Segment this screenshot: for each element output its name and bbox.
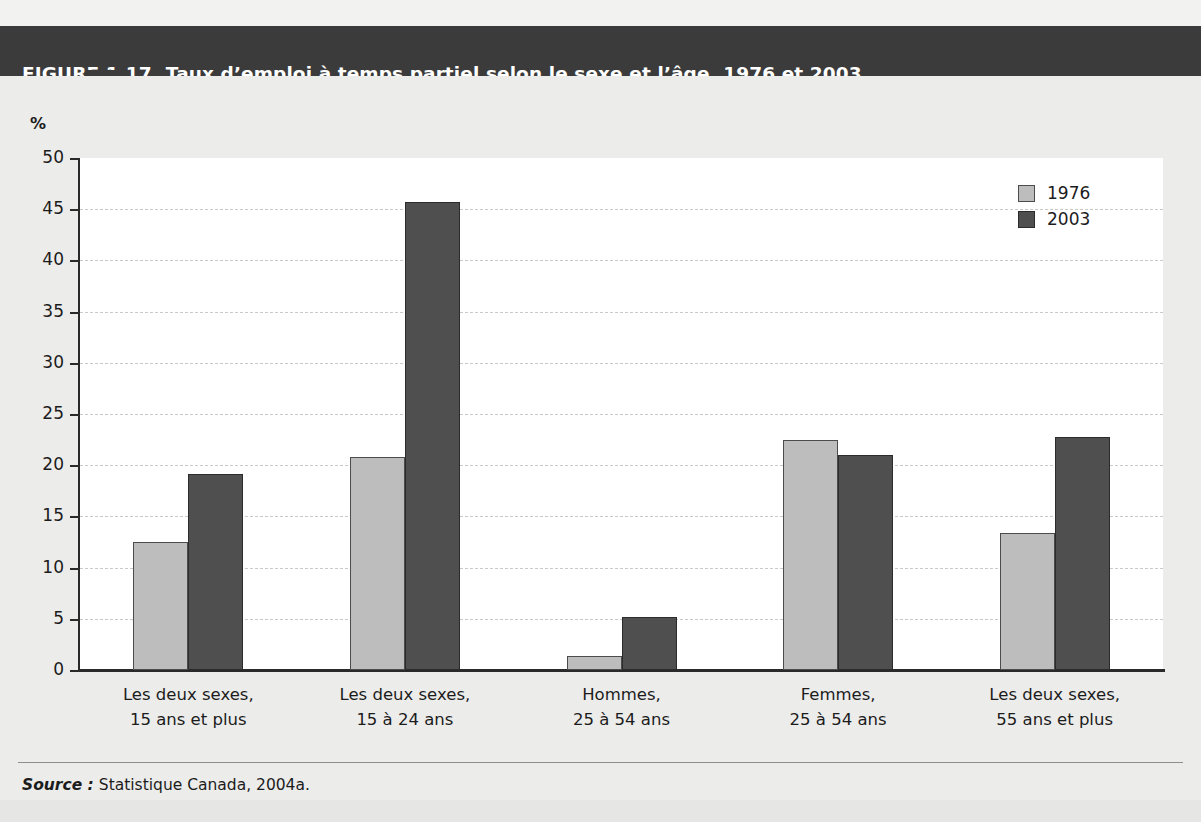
gridline xyxy=(80,312,1163,313)
y-axis-tick xyxy=(70,158,79,160)
y-axis-tick xyxy=(70,414,79,416)
y-axis-tick-label: 35 xyxy=(24,301,64,321)
y-axis-tick-label: 50 xyxy=(24,147,64,167)
gridline xyxy=(80,209,1163,210)
chart-legend: 1976 2003 xyxy=(1018,180,1090,232)
y-axis-tick-label: 25 xyxy=(24,403,64,423)
y-axis-tick-label: 0 xyxy=(24,659,64,679)
y-axis-tick xyxy=(70,209,79,211)
gridline xyxy=(80,363,1163,364)
bar-2003-3 xyxy=(622,617,677,670)
y-axis-tick-label: 20 xyxy=(24,454,64,474)
legend-label-1976: 1976 xyxy=(1047,183,1090,203)
legend-swatch-1976-icon xyxy=(1018,185,1035,202)
bar-2003-4 xyxy=(838,455,893,670)
category-label-line: 25 à 54 ans xyxy=(512,707,732,732)
y-axis-tick xyxy=(70,516,79,518)
x-axis-category-label: Les deux sexes,15 à 24 ans xyxy=(295,682,515,732)
gridline xyxy=(80,414,1163,415)
bar-2003-1 xyxy=(188,474,243,670)
figure-container: FIGURE 1.17Taux d’emploi à temps partiel… xyxy=(0,0,1201,822)
category-label-line: Hommes, xyxy=(512,682,732,707)
y-axis-tick-label: 10 xyxy=(24,557,64,577)
y-axis-tick xyxy=(70,670,79,672)
y-axis-tick-label: 5 xyxy=(24,608,64,628)
page-bottom-margin xyxy=(0,800,1201,822)
bar-1976-1 xyxy=(133,542,188,670)
category-label-line: Les deux sexes, xyxy=(295,682,515,707)
y-axis-tick xyxy=(70,568,79,570)
x-axis-category-label: Hommes,25 à 54 ans xyxy=(512,682,732,732)
bar-1976-5 xyxy=(1000,533,1055,670)
legend-swatch-2003-icon xyxy=(1018,211,1035,228)
category-label-line: Les deux sexes, xyxy=(945,682,1165,707)
y-axis-tick-label: 40 xyxy=(24,249,64,269)
bar-2003-5 xyxy=(1055,437,1110,670)
x-axis-category-label: Femmes,25 à 54 ans xyxy=(728,682,948,732)
page-top-margin xyxy=(0,0,1201,26)
y-axis-tick xyxy=(70,363,79,365)
footer-divider xyxy=(18,762,1183,763)
category-label-line: 55 ans et plus xyxy=(945,707,1165,732)
gridline xyxy=(80,465,1163,466)
category-label-line: 15 à 24 ans xyxy=(295,707,515,732)
x-axis-category-label: Les deux sexes,55 ans et plus xyxy=(945,682,1165,732)
y-axis-tick xyxy=(70,465,79,467)
bar-1976-3 xyxy=(567,656,622,670)
bar-2003-2 xyxy=(405,202,460,670)
source-keyword: Source : xyxy=(22,776,94,794)
y-axis-tick xyxy=(70,260,79,262)
bar-1976-4 xyxy=(783,440,838,670)
bar-1976-2 xyxy=(350,457,405,670)
source-note: Source :Statistique Canada, 2004a. xyxy=(22,776,310,794)
legend-item-1976: 1976 xyxy=(1018,180,1090,206)
gridline xyxy=(80,260,1163,261)
y-axis-tick xyxy=(70,619,79,621)
source-text: Statistique Canada, 2004a. xyxy=(99,776,310,794)
x-axis-category-label: Les deux sexes,15 ans et plus xyxy=(78,682,298,732)
y-axis-tick-label: 45 xyxy=(24,198,64,218)
y-axis-tick-label: 30 xyxy=(24,352,64,372)
figure-header-band: FIGURE 1.17Taux d’emploi à temps partiel… xyxy=(0,26,1201,76)
category-label-line: 25 à 54 ans xyxy=(728,707,948,732)
y-axis-unit-label: % xyxy=(30,114,46,133)
category-label-line: Les deux sexes, xyxy=(78,682,298,707)
legend-label-2003: 2003 xyxy=(1047,209,1090,229)
y-axis-tick-label: 15 xyxy=(24,505,64,525)
category-label-line: Femmes, xyxy=(728,682,948,707)
y-axis-tick xyxy=(70,312,79,314)
legend-item-2003: 2003 xyxy=(1018,206,1090,232)
category-label-line: 15 ans et plus xyxy=(78,707,298,732)
